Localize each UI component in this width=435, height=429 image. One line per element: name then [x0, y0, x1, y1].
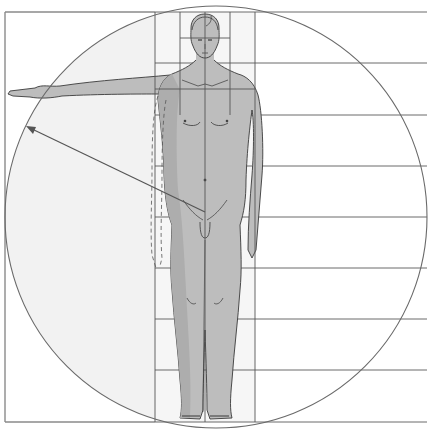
diagram-canvas	[0, 0, 435, 429]
proportion-diagram	[0, 0, 435, 429]
